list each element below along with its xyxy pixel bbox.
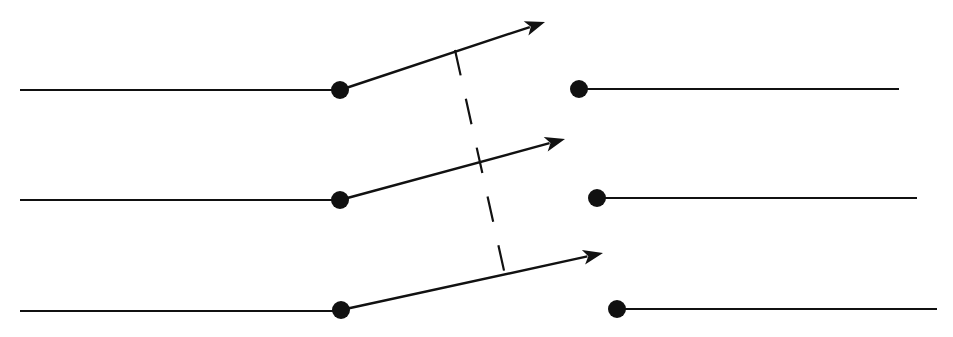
- fixed-contact-terminal: [588, 189, 606, 207]
- mechanical-linkage-dashed: [455, 50, 505, 275]
- fixed-contact-terminal: [608, 300, 626, 318]
- switch-blade: [340, 27, 530, 90]
- switch-pole-2: [20, 137, 917, 209]
- switch-blade: [340, 143, 550, 200]
- pivot-terminal: [331, 191, 349, 209]
- switch-blade: [341, 256, 587, 310]
- pivot-terminal: [332, 301, 350, 319]
- fixed-contact-terminal: [570, 80, 588, 98]
- three-pole-switch-diagram: [0, 0, 953, 337]
- switch-pole-3: [20, 250, 937, 319]
- pivot-terminal: [331, 81, 349, 99]
- switch-pole-1: [20, 21, 899, 99]
